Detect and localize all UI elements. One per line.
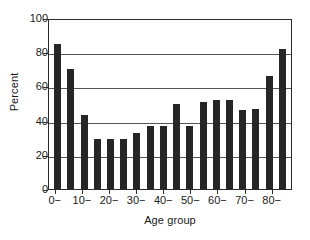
- plot-area: [48, 19, 292, 190]
- bar: [239, 110, 246, 189]
- bar: [213, 100, 220, 189]
- bar: [133, 133, 140, 189]
- x-tick-mark: [190, 190, 191, 194]
- bar: [252, 109, 259, 189]
- x-axis-title: Age group: [48, 214, 292, 226]
- x-tick-mark: [109, 190, 110, 194]
- x-tick-mark: [136, 190, 137, 194]
- bar: [107, 139, 114, 189]
- y-tick-mark: [43, 190, 48, 191]
- bar: [279, 49, 286, 189]
- bar: [200, 102, 207, 189]
- y-tick-label: 40: [18, 115, 48, 127]
- y-tick-label: 100: [18, 12, 48, 24]
- bar: [226, 100, 233, 189]
- x-tick-mark: [272, 190, 273, 194]
- y-tick-label: 60: [18, 80, 48, 92]
- x-tick-mark: [163, 190, 164, 194]
- x-tick-mark: [55, 190, 56, 194]
- bar: [186, 126, 193, 189]
- bar: [81, 115, 88, 189]
- y-tick-label: 20: [18, 149, 48, 161]
- bar: [160, 126, 167, 189]
- bar: [94, 139, 101, 189]
- bar: [120, 139, 127, 189]
- bar: [147, 126, 154, 189]
- bar: [173, 104, 180, 190]
- x-tick-label: 80−: [255, 194, 289, 206]
- bar: [266, 76, 273, 189]
- bar: [54, 44, 61, 189]
- bar: [67, 69, 74, 189]
- x-tick-mark: [82, 190, 83, 194]
- x-tick-mark: [245, 190, 246, 194]
- bar-chart: Percent 020406080100 0−10−20−30−40−50−60…: [0, 0, 310, 240]
- bar-series: [49, 20, 291, 189]
- x-tick-mark: [217, 190, 218, 194]
- y-tick-label: 80: [18, 46, 48, 58]
